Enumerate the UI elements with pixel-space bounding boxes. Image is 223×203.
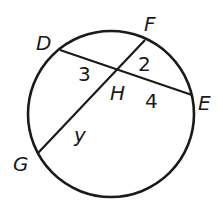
circle	[28, 31, 194, 197]
point-label-e: E	[198, 91, 211, 115]
point-label-d: D	[36, 31, 51, 55]
segment-label-fh: 2	[138, 52, 151, 76]
segment-label-he: 4	[145, 89, 158, 113]
point-label-g: G	[13, 152, 29, 176]
point-label-h: H	[110, 81, 125, 105]
segment-label-dh: 3	[78, 62, 91, 86]
point-label-f: F	[144, 12, 156, 36]
segment-label-hg: y	[73, 123, 87, 147]
intersecting-chords-diagram: D F E G H 3 2 4 y	[0, 0, 223, 203]
chord-fg	[38, 40, 145, 153]
